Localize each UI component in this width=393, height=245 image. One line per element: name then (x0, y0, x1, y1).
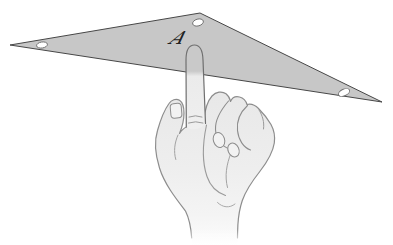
wrist-fade (175, 229, 253, 245)
figure-canvas: A (0, 0, 393, 245)
balance-diagram: A (0, 0, 393, 245)
thumb-nail (170, 103, 182, 118)
